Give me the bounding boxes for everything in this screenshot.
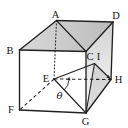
- vertex-label-E: E: [43, 73, 49, 84]
- cube-diagram-svg: ABCDEFGHIθ: [0, 0, 128, 128]
- angle-arc: [64, 80, 69, 90]
- vertex-label-B: B: [6, 45, 13, 56]
- vertex-label-G: G: [82, 116, 90, 127]
- edge-E-H: [54, 79, 111, 80]
- angle-arc-arrowhead-icon: [67, 77, 70, 80]
- vertex-label-D: D: [112, 10, 120, 21]
- vertex-label-F: F: [8, 104, 14, 115]
- angle-theta-label: θ: [56, 90, 62, 101]
- vertex-label-C: C: [86, 51, 93, 62]
- edge-F-G: [20, 110, 87, 113]
- vertex-label-A: A: [52, 9, 60, 20]
- geometry-figure: ABCDEFGHIθ: [0, 0, 128, 128]
- vertex-label-H: H: [115, 74, 123, 85]
- vertex-label-I: I: [97, 51, 101, 62]
